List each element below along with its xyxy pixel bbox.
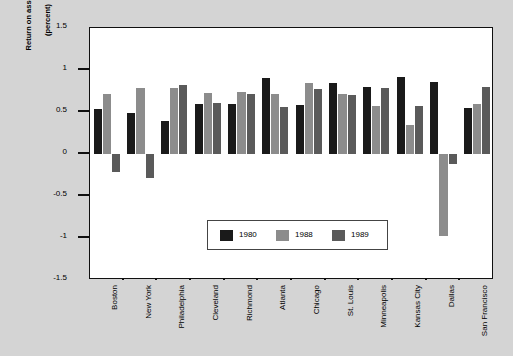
y-axis-tick-label: 0 xyxy=(63,147,67,156)
bar xyxy=(213,103,221,154)
y-axis-title-line-2: (percent) xyxy=(43,0,53,80)
bar xyxy=(329,83,337,154)
bar xyxy=(305,83,313,154)
bar xyxy=(170,88,178,154)
y-axis-tick-label: -0.5 xyxy=(53,189,67,198)
chart-figure: Return on assets (percent) 1.510.50-0.5-… xyxy=(0,0,513,356)
x-axis-category-label: Minneapolis xyxy=(379,285,388,356)
bar xyxy=(161,121,169,154)
y-axis-title-line-1: Return on assets xyxy=(24,0,34,80)
bar xyxy=(430,82,438,154)
y-axis-tick-label: 0.5 xyxy=(56,105,67,114)
legend-label: 1988 xyxy=(295,230,313,239)
bar xyxy=(127,113,135,154)
legend-swatch xyxy=(220,230,233,241)
x-axis-category-label: Chicago xyxy=(312,285,321,356)
bar xyxy=(271,94,279,154)
bar xyxy=(348,95,356,154)
bar xyxy=(415,106,423,154)
bar xyxy=(473,104,481,154)
y-axis-tick-mark xyxy=(78,68,89,70)
bar xyxy=(280,107,288,154)
bar xyxy=(439,154,447,236)
bar xyxy=(103,94,111,154)
legend-swatch xyxy=(332,230,345,241)
x-axis-category-label: Boston xyxy=(110,285,119,356)
y-axis-tick-label: -1 xyxy=(60,231,67,240)
bar xyxy=(296,105,304,154)
bar xyxy=(338,94,346,154)
bar xyxy=(237,92,245,154)
bar xyxy=(372,106,380,154)
legend-label: 1980 xyxy=(239,230,257,239)
x-axis-category-label: San Francisco xyxy=(480,285,489,356)
legend-label: 1989 xyxy=(351,230,369,239)
bar xyxy=(94,109,102,154)
bar xyxy=(397,77,405,154)
x-axis-category-label: Cleveland xyxy=(211,285,220,356)
bar xyxy=(228,104,236,154)
x-axis-category-label: Philadelphia xyxy=(177,285,186,356)
bar xyxy=(363,87,371,154)
x-axis-category-label: St. Louis xyxy=(346,285,355,356)
x-axis-category-label: New York xyxy=(144,285,153,356)
bar xyxy=(464,108,472,154)
bar xyxy=(262,78,270,154)
bar xyxy=(146,154,154,178)
chart-legend: 198019881989 xyxy=(207,220,388,250)
x-axis-category-label: Atlanta xyxy=(278,285,287,356)
bar xyxy=(179,85,187,154)
bar xyxy=(381,88,389,154)
bar xyxy=(314,89,322,154)
y-axis-tick-mark xyxy=(78,194,89,196)
bar xyxy=(247,94,255,154)
bar xyxy=(482,87,490,154)
bar xyxy=(112,154,120,172)
bar xyxy=(195,104,203,154)
y-axis-tick-mark xyxy=(78,152,89,154)
bar xyxy=(136,88,144,154)
y-axis-tick-label: 1 xyxy=(63,63,67,72)
y-axis-tick-label: 1.5 xyxy=(56,21,67,30)
x-axis-category-label: Kansas City xyxy=(413,285,422,356)
bar xyxy=(204,93,212,154)
y-axis-tick-mark xyxy=(78,110,89,112)
bar xyxy=(406,125,414,154)
y-axis-tick-mark xyxy=(78,236,89,238)
y-axis-title: Return on assets (percent) xyxy=(14,0,38,80)
bar xyxy=(449,154,457,164)
x-axis-category-label: Dallas xyxy=(447,285,456,356)
y-axis-tick-label: -1.5 xyxy=(53,273,67,282)
x-axis-category-label: Richmond xyxy=(245,285,254,356)
legend-swatch xyxy=(276,230,289,241)
